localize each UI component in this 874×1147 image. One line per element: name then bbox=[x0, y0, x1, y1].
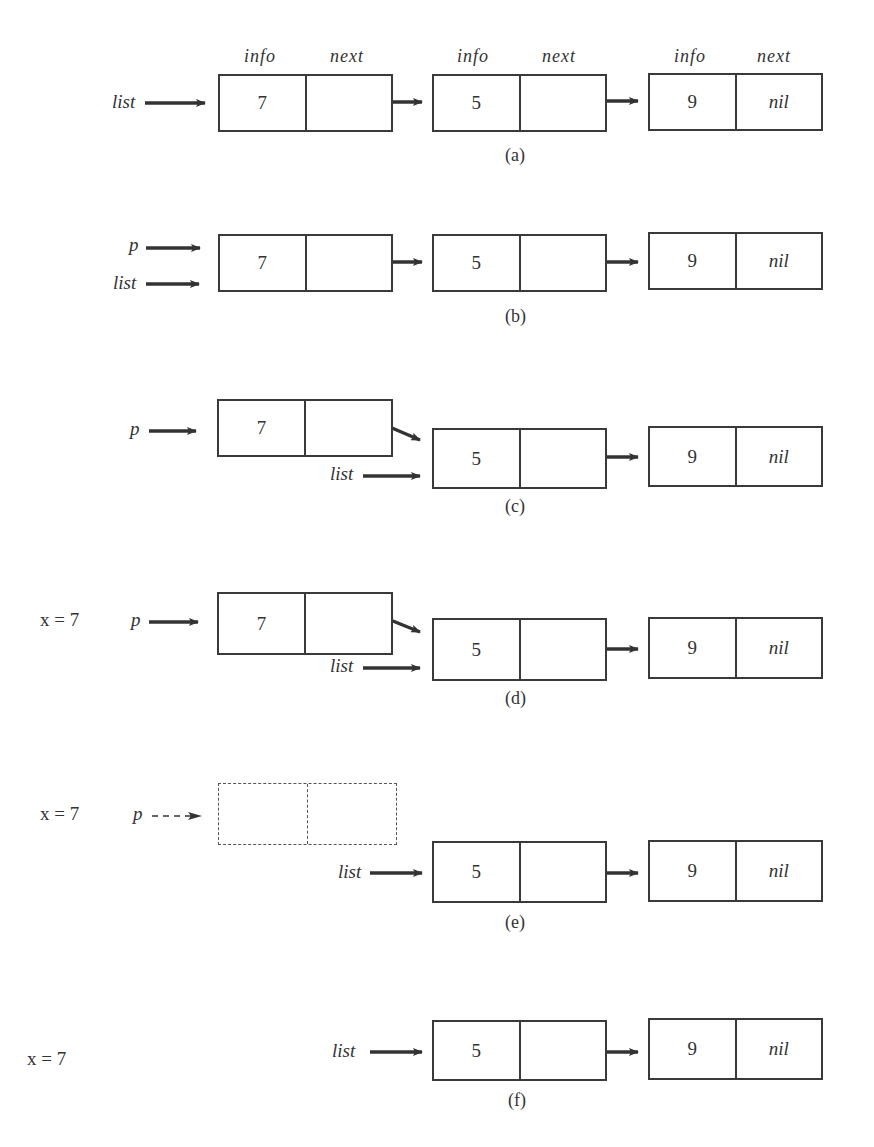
node-next-cell bbox=[305, 76, 392, 130]
header-next-1: next bbox=[330, 46, 364, 67]
pointer-arrows bbox=[0, 0, 874, 1147]
list-node: 7 bbox=[218, 74, 393, 132]
panel-caption: (e) bbox=[505, 912, 525, 933]
pointer-list-label: list bbox=[332, 1040, 355, 1062]
list-node: 5 bbox=[432, 618, 607, 681]
list-node: 7 bbox=[218, 234, 393, 292]
node-info-cell: 9 bbox=[650, 842, 735, 900]
variable-x-value: x = 7 bbox=[27, 1048, 66, 1070]
list-node: 7 bbox=[217, 399, 393, 457]
pointer-list-label: list bbox=[112, 91, 135, 113]
list-node: 5 bbox=[432, 1020, 607, 1081]
list-node: 7 bbox=[217, 592, 393, 655]
node-next-cell: nil bbox=[735, 619, 822, 677]
node-next-cell: nil bbox=[735, 75, 822, 129]
node-info-cell: 7 bbox=[220, 76, 305, 130]
node-info-cell: 5 bbox=[434, 76, 519, 130]
node-info-cell: 5 bbox=[434, 236, 519, 290]
node-next-cell bbox=[519, 1022, 606, 1079]
node-next-cell bbox=[519, 76, 606, 130]
list-node: 9 nil bbox=[648, 73, 823, 131]
node-info-cell: 9 bbox=[650, 1020, 735, 1078]
node-next-cell: nil bbox=[735, 1020, 822, 1078]
node-next-cell: nil bbox=[735, 234, 822, 288]
node-info-cell: 7 bbox=[220, 236, 305, 290]
list-node: 9 nil bbox=[648, 840, 823, 902]
node-next-cell bbox=[519, 236, 606, 290]
list-node: 9 nil bbox=[648, 232, 823, 290]
list-node: 5 bbox=[432, 74, 607, 132]
variable-x-value: x = 7 bbox=[40, 803, 79, 825]
node-info-cell bbox=[219, 784, 307, 844]
header-info-3: info bbox=[674, 46, 706, 67]
panel-caption: (a) bbox=[505, 145, 525, 166]
list-node: 5 bbox=[432, 841, 607, 903]
node-next-cell: nil bbox=[735, 842, 822, 900]
header-info-1: info bbox=[244, 46, 276, 67]
node-next-cell: nil bbox=[735, 428, 822, 485]
list-node: 9 nil bbox=[648, 1018, 823, 1080]
node-next-cell bbox=[305, 236, 392, 290]
node-info-cell: 9 bbox=[650, 234, 735, 288]
node-info-cell: 5 bbox=[434, 430, 519, 487]
node-next-cell bbox=[519, 620, 606, 679]
panel-caption: (b) bbox=[505, 306, 526, 327]
header-next-3: next bbox=[757, 46, 791, 67]
list-node: 9 nil bbox=[648, 617, 823, 679]
node-info-cell: 5 bbox=[434, 1022, 519, 1079]
node-info-cell: 9 bbox=[650, 75, 735, 129]
pointer-p-label: p bbox=[131, 609, 141, 631]
pointer-p-label: p bbox=[133, 803, 143, 825]
node-info-cell: 5 bbox=[434, 843, 519, 901]
pointer-list-label: list bbox=[113, 272, 136, 294]
pointer-list-label: list bbox=[330, 655, 353, 677]
panel-caption: (c) bbox=[505, 496, 525, 517]
node-next-cell bbox=[307, 784, 396, 844]
header-next-2: next bbox=[542, 46, 576, 67]
pointer-list-label: list bbox=[338, 861, 361, 883]
node-next-cell bbox=[304, 401, 391, 455]
node-info-cell: 7 bbox=[219, 594, 304, 653]
node-info-cell: 5 bbox=[434, 620, 519, 679]
panel-caption: (d) bbox=[505, 688, 526, 709]
pointer-p-label: p bbox=[130, 418, 140, 440]
pointer-p-label: p bbox=[129, 234, 139, 256]
node-info-cell: 9 bbox=[650, 428, 735, 485]
pointer-list-label: list bbox=[330, 463, 353, 485]
variable-x-value: x = 7 bbox=[40, 609, 79, 631]
freed-node bbox=[218, 783, 397, 845]
node-info-cell: 9 bbox=[650, 619, 735, 677]
node-next-cell bbox=[304, 594, 391, 653]
node-next-cell bbox=[519, 843, 606, 901]
list-node: 5 bbox=[432, 428, 607, 489]
panel-caption: (f) bbox=[508, 1090, 526, 1111]
header-info-2: info bbox=[457, 46, 489, 67]
list-node: 9 nil bbox=[648, 426, 823, 487]
node-info-cell: 7 bbox=[219, 401, 304, 455]
node-next-cell bbox=[519, 430, 606, 487]
list-node: 5 bbox=[432, 234, 607, 292]
